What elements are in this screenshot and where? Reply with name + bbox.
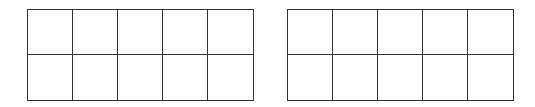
ten-frame-left bbox=[27, 9, 254, 101]
frame-cell bbox=[333, 55, 378, 100]
frame-cell bbox=[118, 10, 163, 55]
frame-cell bbox=[423, 55, 468, 100]
frame-cell bbox=[163, 55, 208, 100]
frame-cell bbox=[288, 10, 333, 55]
ten-frame-right bbox=[287, 9, 514, 101]
frame-cell bbox=[468, 55, 513, 100]
frame-cell bbox=[73, 10, 118, 55]
frame-cell bbox=[73, 55, 118, 100]
frame-cell bbox=[163, 10, 208, 55]
frame-cell bbox=[378, 10, 423, 55]
frame-cell bbox=[333, 10, 378, 55]
frame-cell bbox=[423, 10, 468, 55]
frame-cell bbox=[28, 55, 73, 100]
frame-cell bbox=[28, 10, 73, 55]
frame-cell bbox=[288, 55, 333, 100]
frame-cell bbox=[468, 10, 513, 55]
frame-cell bbox=[118, 55, 163, 100]
frame-cell bbox=[208, 10, 253, 55]
frame-cell bbox=[378, 55, 423, 100]
frame-cell bbox=[208, 55, 253, 100]
